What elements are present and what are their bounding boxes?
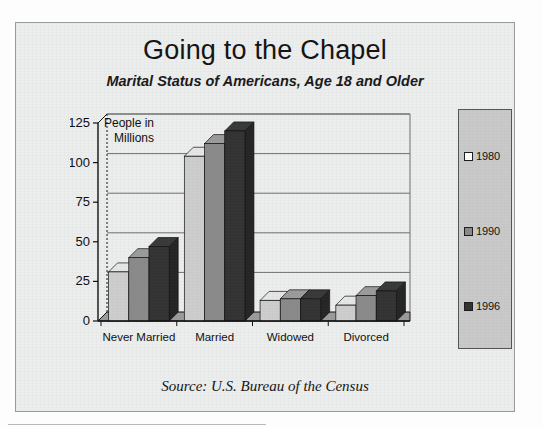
- bars-group: [109, 122, 406, 321]
- chart-frame: Going to the Chapel Marital Status of Am…: [15, 22, 515, 412]
- chart-subtitle: Marital Status of Americans, Age 18 and …: [16, 73, 514, 89]
- bar: [149, 238, 178, 321]
- y-tick-label: 75: [76, 194, 90, 209]
- bar-front-face: [205, 144, 225, 321]
- bar-side-face: [169, 238, 178, 321]
- source-caption: Source: U.S. Bureau of the Census: [16, 378, 514, 395]
- bar-front-face: [336, 305, 356, 321]
- y-tick-label: 50: [76, 234, 90, 249]
- chart-legend: 1980 1990 1996: [458, 109, 512, 349]
- bar: [300, 290, 329, 321]
- bar-front-face: [129, 258, 149, 321]
- legend-item-1996[interactable]: 1996: [464, 300, 500, 312]
- y-tick-label: 100: [70, 155, 90, 170]
- legend-swatch-1990: [464, 227, 473, 236]
- bar-front-face: [149, 247, 169, 321]
- x-axis-label-divorced: Divorced: [316, 331, 416, 343]
- bar-front-face: [109, 272, 129, 321]
- legend-swatch-1980: [464, 152, 473, 161]
- legend-item-1990[interactable]: 1990: [464, 225, 500, 237]
- bar-front-face: [376, 291, 396, 321]
- legend-label-1996: 1996: [476, 300, 500, 312]
- legend-label-1990: 1990: [476, 225, 500, 237]
- plot-area: 0255075100125 People in Millions: [70, 109, 415, 349]
- x-axis-ticks: [101, 321, 404, 326]
- bar-side-face: [245, 122, 254, 321]
- legend-swatch-1996: [464, 302, 473, 311]
- page-rule-artifact: [8, 424, 266, 425]
- bar: [225, 122, 254, 321]
- bar-chart-svg: 0255075100125: [70, 109, 415, 349]
- y-tick-label: 125: [70, 115, 90, 130]
- bar: [376, 282, 405, 321]
- bar-front-face: [184, 156, 204, 321]
- depth-edge-top: [98, 114, 107, 123]
- legend-item-1980[interactable]: 1980: [464, 150, 500, 162]
- bar-front-face: [280, 299, 300, 321]
- scanned-page: Going to the Chapel Marital Status of Am…: [0, 0, 543, 428]
- bar-front-face: [225, 131, 245, 321]
- y-axis-ticks: 0255075100125: [70, 115, 98, 328]
- bar-front-face: [356, 296, 376, 321]
- y-tick-label: 0: [83, 313, 90, 328]
- bar-front-face: [260, 300, 280, 321]
- bar-front-face: [300, 299, 320, 321]
- y-tick-label: 25: [76, 273, 90, 288]
- chart-title: Going to the Chapel: [16, 35, 514, 66]
- legend-label-1980: 1980: [476, 150, 500, 162]
